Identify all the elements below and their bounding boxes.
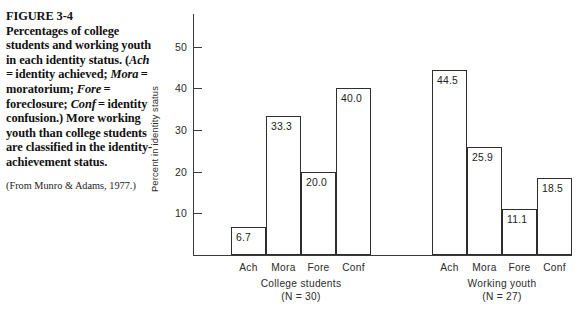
x-axis-line: [193, 255, 572, 256]
bar: [336, 88, 371, 255]
bar-chart: Percent in identity status 1020304050 6.…: [0, 0, 588, 309]
y-axis-tick: [193, 47, 202, 48]
group-name: Working youth: [432, 278, 572, 291]
bar-value-label: 6.7: [236, 233, 251, 243]
category-label: Fore: [301, 263, 336, 273]
group-label: College students(N = 30): [231, 278, 371, 303]
bar: [266, 116, 301, 255]
y-axis-tick-label: 10: [159, 208, 187, 219]
bar-value-label: 25.9: [472, 153, 493, 163]
group-sample-size: (N = 27): [432, 291, 572, 304]
bar-value-label: 44.5: [437, 76, 458, 86]
bar-value-label: 20.0: [306, 178, 327, 188]
bar-value-label: 33.3: [271, 122, 292, 132]
y-axis-title: Percent in identity status: [149, 84, 160, 194]
category-label: Mora: [266, 263, 301, 273]
bar: [432, 70, 467, 255]
group-sample-size: (N = 30): [231, 291, 371, 304]
y-axis-tick-label: 50: [159, 42, 187, 53]
category-label: Ach: [432, 263, 467, 273]
group-label: Working youth(N = 27): [432, 278, 572, 303]
y-axis-tick: [193, 88, 202, 89]
bar-value-label: 18.5: [542, 184, 563, 194]
y-axis-tick: [193, 213, 202, 214]
y-axis-tick-label: 20: [159, 167, 187, 178]
bar-value-label: 40.0: [341, 94, 362, 104]
y-axis-tick-label: 30: [159, 125, 187, 136]
group-name: College students: [231, 278, 371, 291]
y-axis-tick: [193, 172, 202, 173]
category-label: Ach: [231, 263, 266, 273]
category-label: Fore: [502, 263, 537, 273]
category-label: Mora: [467, 263, 502, 273]
bar-value-label: 11.1: [507, 215, 527, 225]
y-axis-tick-label: 40: [159, 83, 187, 94]
y-axis-tick: [193, 130, 202, 131]
y-axis-line: [193, 14, 194, 256]
category-label: Conf: [336, 263, 371, 273]
category-label: Conf: [537, 263, 572, 273]
